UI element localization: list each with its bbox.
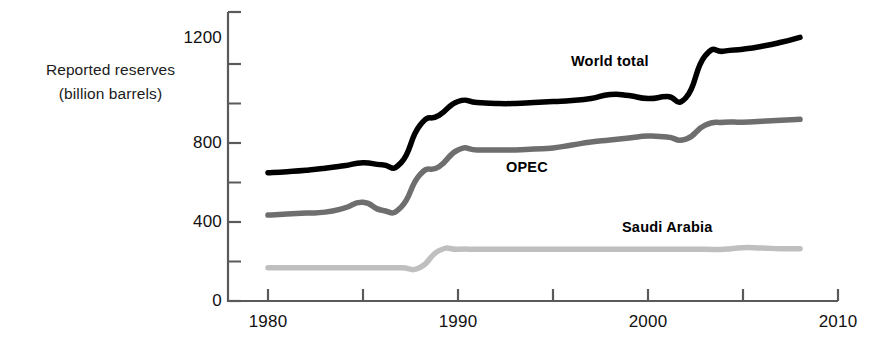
axis-lines — [228, 12, 838, 301]
plot-area — [0, 0, 878, 353]
axes-group — [228, 12, 838, 301]
x-axis-ticks — [268, 289, 838, 301]
series-line-world-total — [268, 37, 800, 172]
reported-reserves-line-chart: Reported reserves (billion barrels) 1200… — [0, 0, 878, 353]
series-line-saudi-arabia — [268, 248, 800, 270]
y-axis-ticks — [228, 12, 241, 301]
data-series-group — [268, 37, 800, 269]
